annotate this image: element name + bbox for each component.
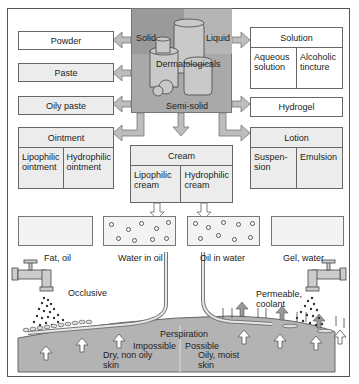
fat-oil-label: Fat, oil [44,253,71,263]
droplets-left [33,297,64,326]
suspension: Suspen- sion [251,148,296,188]
emulsion: Emulsion [296,148,342,188]
hydrogel-box: Hydrogel [250,97,343,117]
dermatologicals-label: Dermatologicals [156,59,221,69]
liquid-label: Liquid [206,33,230,43]
alcoholic-tincture: Alcoholic tincture [296,48,342,88]
permeable-label: Permeable, coolant [256,289,302,309]
ointment-box: Ointment Lipophilic ointment Hydrophilic… [18,127,114,189]
perspiration-label: Perspiration [160,329,208,339]
oil-in-water-box [187,216,260,246]
arrow-to-oily-paste [113,96,131,112]
lotion-title: Lotion [251,128,342,148]
arrow-to-hydrogel [232,96,250,112]
water-in-oil-label: Water in oil [118,253,163,263]
perspiration-arrow [334,330,346,344]
arrow-to-paste [113,65,131,81]
aqueous-solution: Aqueous solution [251,48,296,88]
dermatologicals-block: Solid Liquid Dermatologicals Semi-solid [131,8,232,113]
cream-title: Cream [131,146,232,166]
faucet-left-icon [12,260,53,291]
paste-box: Paste [18,63,114,82]
lipophilic-cream: Lipophilic cream [131,166,180,202]
lotion-box: Lotion Suspen- sion Emulsion [250,127,343,189]
arrow-to-powder [113,32,131,48]
solution-box: Solution Aqueous solution Alcoholic tinc… [250,27,343,89]
oil-in-water-label: Oil in water [200,253,245,263]
semisolid-label: Semi-solid [166,101,208,111]
arrow-to-cream [173,113,189,136]
solution-title: Solution [251,28,342,48]
solid-label: Solid [136,33,156,43]
arrow-to-lotion [219,113,250,141]
occlusive-label: Occlusive [68,288,107,298]
powder-box: Powder [18,31,114,50]
hydrophilic-cream: Hydrophilic cream [180,166,232,202]
lipophilic-ointment: Lipophilic ointment [19,148,63,188]
hydrophilic-ointment: Hydrophilic ointment [63,148,115,188]
ointment-title: Ointment [19,128,113,148]
dry-skin-label: Dry, non oily skin [103,350,163,370]
arrow-to-solution [232,32,250,48]
oily-paste-box: Oily paste [18,96,114,115]
cream-box: Cream Lipophilic cream Hydrophilic cream [130,145,233,203]
arrow-to-ointment [113,113,144,141]
oily-skin-label: Oily, moist skin [198,350,248,370]
gel-water-label: Gel, water [283,253,324,263]
gel-water-box [271,216,344,246]
water-in-oil-box [103,216,176,246]
faucet-right-icon [306,260,346,291]
fat-oil-box [18,216,93,246]
